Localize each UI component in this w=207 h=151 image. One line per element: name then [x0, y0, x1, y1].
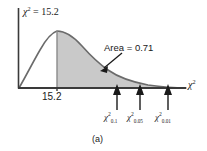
critical-chi-subscript-1: 0.05 — [134, 118, 143, 124]
axis-tick-label-15-2: 15.2 — [42, 92, 61, 102]
x-axis-chi-exponent: 2 — [192, 78, 195, 85]
chi-equals: = — [31, 6, 42, 17]
figure-caption: (a) — [92, 134, 103, 144]
chi-value: 15.2 — [41, 6, 59, 17]
area-label: Area = 0.71 — [104, 43, 153, 53]
critical-chi-subscript-0: 0.1 — [111, 118, 118, 124]
x-axis-label: χ2 — [188, 80, 196, 90]
chi-square-statistic-label: χ2 = 15.2 — [23, 7, 59, 17]
critical-chi-subscript-2: 0.01 — [162, 118, 171, 124]
critical-value-label-0: χ20.1 — [104, 112, 117, 122]
critical-chi-exponent-0: 2 — [108, 111, 111, 117]
chi-square-plot-svg — [0, 0, 207, 151]
chi-square-distribution-figure: χ2 = 15.2 Area = 0.71 15.2 χ2 χ20.1 χ20.… — [0, 0, 207, 151]
critical-value-label-2: χ20.01 — [155, 112, 171, 122]
critical-value-label-1: χ20.05 — [127, 112, 143, 122]
area-callout-line — [104, 53, 122, 68]
critical-chi-exponent-1: 2 — [131, 111, 134, 117]
critical-chi-exponent-2: 2 — [159, 111, 162, 117]
